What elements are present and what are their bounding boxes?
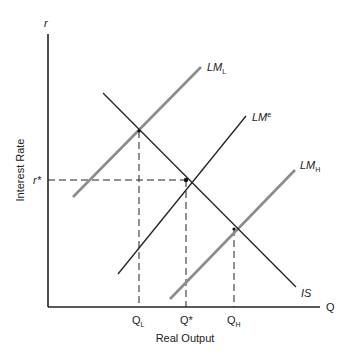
lm-e-sup: e <box>267 111 271 118</box>
lm-e-base: LM <box>252 111 268 123</box>
lm-l-sub: L <box>222 68 226 75</box>
is-label: IS <box>301 287 312 299</box>
lm-l-label: LML <box>207 61 226 75</box>
q-l-label: QL <box>132 314 145 328</box>
low-intersection-point <box>137 129 140 132</box>
q-star-label: Q* <box>180 314 194 326</box>
x-axis-symbol: Q <box>326 301 335 313</box>
y-axis-symbol: r <box>44 17 49 29</box>
q-h-label: QH <box>227 314 241 328</box>
lm-h-curve <box>170 170 295 299</box>
lm-e-label: LMe <box>252 111 271 123</box>
lm-h-base: LM <box>300 159 316 171</box>
is-lm-diagram: r Q Interest Rate Real Output r* QL Q* Q… <box>0 0 351 363</box>
q-l-sub: L <box>141 321 145 328</box>
lm-h-label: LMH <box>300 159 320 173</box>
lm-l-curve <box>73 67 201 197</box>
equilibrium-point <box>184 178 188 182</box>
x-axis-label: Real Output <box>156 332 215 344</box>
r-star-label: r* <box>33 174 42 186</box>
q-h-sub: H <box>236 321 241 328</box>
guide-lines <box>48 131 234 307</box>
lm-e-curve <box>118 116 246 274</box>
high-intersection-point <box>232 227 235 230</box>
lm-h-sub: H <box>315 166 320 173</box>
lm-l-base: LM <box>207 61 223 73</box>
y-axis-label: Interest Rate <box>14 139 26 202</box>
